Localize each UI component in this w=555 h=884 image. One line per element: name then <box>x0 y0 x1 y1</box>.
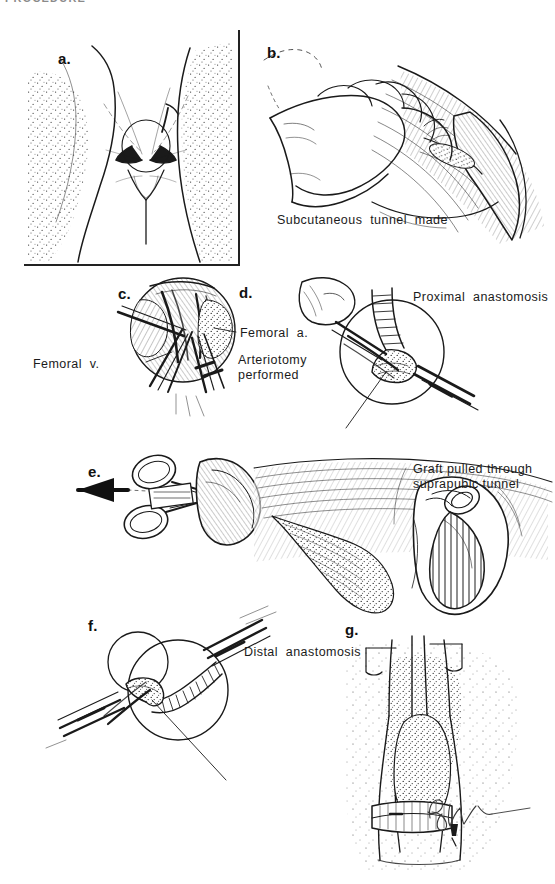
panel-letter-f: f. <box>88 617 98 635</box>
surgical-figure: PROCEDURE <box>0 0 555 884</box>
label-femoral-artery: Femoral a. <box>240 326 308 341</box>
panel-c-artwork <box>118 278 236 416</box>
panel-letter-e: e. <box>88 463 101 481</box>
label-arteriotomy: Arteriotomy performed <box>238 353 307 384</box>
caption-distal-anastomosis: Distal anastomosis <box>244 645 361 660</box>
panel-a-frame <box>24 30 240 266</box>
label-femoral-vein: Femoral v. <box>33 357 100 372</box>
panel-f-artwork <box>46 606 276 780</box>
panel-letter-g: g. <box>345 621 359 639</box>
caption-proximal-anastomosis: Proximal anastomosis <box>413 290 548 305</box>
panel-g-artwork <box>345 636 530 872</box>
caption-graft-pulled-through: Graft pulled through suprapubic tunnel <box>413 462 533 493</box>
panel-letter-c: c. <box>118 285 131 303</box>
panel-letter-a: a. <box>58 50 71 68</box>
panel-letter-b: b. <box>267 44 281 62</box>
caption-subcutaneous-tunnel: Subcutaneous tunnel made <box>277 213 448 228</box>
panel-letter-d: d. <box>239 284 253 302</box>
